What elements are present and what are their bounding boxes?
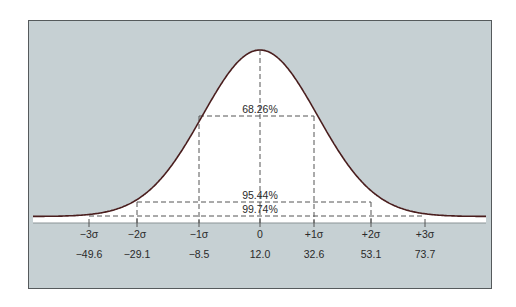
sigma-label: −2σ [128, 228, 147, 240]
sigma-label: +3σ [416, 228, 435, 240]
value-label: 53.1 [361, 248, 382, 260]
sigma-label: +2σ [362, 228, 381, 240]
sigma-label: 0 [257, 228, 263, 240]
annotation-68: 68.26% [242, 103, 278, 115]
value-label: −49.6 [76, 248, 103, 260]
value-label: 12.0 [250, 248, 271, 260]
sigma-label: −3σ [80, 228, 99, 240]
sigma-label: −1σ [190, 228, 209, 240]
annotation-95: 95.44% [242, 189, 278, 201]
value-label: −8.5 [189, 248, 210, 260]
annotation-99: 99.74% [242, 203, 278, 215]
sigma-label: +1σ [305, 228, 324, 240]
value-label: 32.6 [304, 248, 325, 260]
normal-distribution-chart: 68.26% 95.44% 99.74% −3σ −2σ −1σ 0 +1σ +… [0, 0, 516, 307]
value-label: −29.1 [124, 248, 151, 260]
value-label: 73.7 [415, 248, 436, 260]
